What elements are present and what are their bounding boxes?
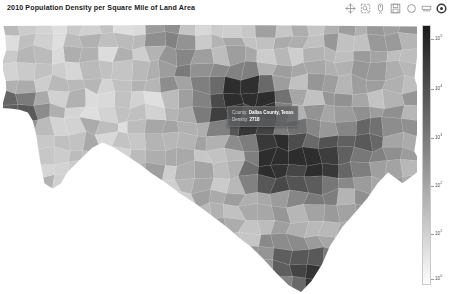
plot-header: 2010 Population Density per Square Mile … xyxy=(0,0,452,20)
box-zoom-tool-icon[interactable] xyxy=(360,3,371,14)
plot-area[interactable]: County: Dallas County, Texas Density: 27… xyxy=(3,20,417,292)
color-bar-tick-4 xyxy=(431,234,434,235)
color-bar-tick-label-5: 100 xyxy=(435,276,442,281)
hover-tool-icon[interactable] xyxy=(421,3,432,14)
bokeh-choropleth-app: 2010 Population Density per Square Mile … xyxy=(0,0,452,294)
texas-county-choropleth[interactable] xyxy=(3,20,417,292)
save-tool-icon[interactable] xyxy=(390,3,401,14)
color-bar-tick-label-1: 104 xyxy=(435,86,442,91)
color-bar-gradient xyxy=(422,25,431,285)
color-bar-tick-label-2: 103 xyxy=(435,136,442,141)
tooltip-row-density: Density: 2718 xyxy=(232,116,293,123)
color-bar-tick-label-3: 102 xyxy=(435,184,442,189)
tooltip-value-county: Dallas County, Texas xyxy=(249,110,294,115)
hover-tooltip: County: Dallas County, Texas Density: 27… xyxy=(227,106,298,128)
color-bar-tick-5 xyxy=(431,279,434,280)
color-bar-legend: 105104103102101100 xyxy=(422,25,431,285)
tooltip-key-density: Density: xyxy=(232,117,248,122)
color-bar-tick-1 xyxy=(431,89,434,90)
tooltip-value-density: 2718 xyxy=(250,117,260,122)
bokeh-toolbar[interactable] xyxy=(345,3,447,14)
reset-tool-icon[interactable] xyxy=(406,3,417,14)
page-title: 2010 Population Density per Square Mile … xyxy=(7,4,195,12)
tooltip-row-county: County: Dallas County, Texas xyxy=(232,109,293,116)
color-bar-tick-3 xyxy=(431,186,434,187)
bokeh-logo-icon[interactable] xyxy=(436,3,447,14)
pan-tool-icon[interactable] xyxy=(345,3,356,14)
color-bar-tick-0 xyxy=(431,39,434,40)
color-bar-tick-label-4: 101 xyxy=(435,232,442,237)
tooltip-key-county: County: xyxy=(232,110,248,115)
color-bar-tick-label-0: 105 xyxy=(435,37,442,42)
color-bar-tick-2 xyxy=(431,138,434,139)
wheel-zoom-tool-icon[interactable] xyxy=(375,3,386,14)
